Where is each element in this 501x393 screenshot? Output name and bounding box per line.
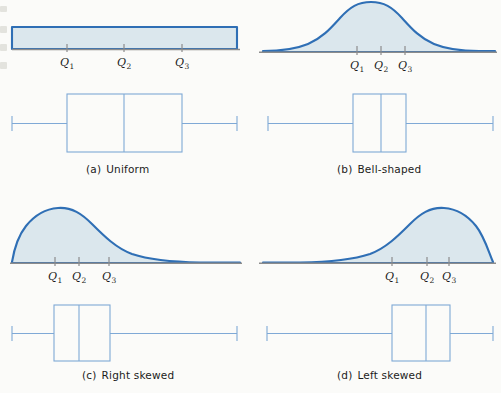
panel-b-caption-tag: (b) (337, 163, 352, 175)
q3-label: Q (398, 59, 407, 72)
panel-b-quartile-labels: Q1 Q2 Q3 (350, 59, 413, 74)
q3-subscript: 3 (452, 276, 457, 285)
panel-c-caption-tag: (c) (82, 369, 97, 381)
svg-text:Q2: Q2 (117, 56, 132, 71)
svg-text:Q3: Q3 (398, 59, 413, 74)
q1-label: Q (385, 270, 394, 283)
panel-b-caption: (b)Bell-shaped (337, 163, 421, 175)
panel-c-caption-label: Right skewed (102, 369, 175, 381)
q2-subscript: 2 (127, 62, 132, 71)
panel-c-right-skewed: Q1 Q2 Q3 (10, 208, 242, 361)
q1-label: Q (60, 56, 69, 69)
q3-subscript: 3 (185, 62, 190, 71)
distribution-shapes-figure: .curve{fill:#dbe7ed;stroke:#2f6fb5;strok… (0, 0, 501, 393)
svg-text:Q3: Q3 (175, 56, 190, 71)
panel-a-quartile-labels: Q1 Q2 Q3 (60, 56, 190, 71)
svg-text:Q1: Q1 (350, 59, 364, 74)
panel-a-boxplot (12, 94, 237, 152)
q1-subscript: 1 (360, 65, 365, 74)
q3-label: Q (102, 270, 111, 283)
q3-subscript: 3 (112, 276, 117, 285)
panel-b-boxplot (268, 94, 493, 152)
panel-a-caption: (a)Uniform (86, 163, 149, 175)
panel-c-boxplot (12, 305, 237, 361)
q3-label: Q (442, 270, 451, 283)
panel-d-quartile-labels: Q1 Q2 Q3 (385, 270, 457, 285)
q2-subscript: 2 (82, 276, 87, 285)
svg-text:Q1: Q1 (48, 270, 62, 285)
panel-c-caption: (c)Right skewed (82, 369, 174, 381)
panel-d-distribution-curve (259, 208, 496, 263)
panel-b-distribution-curve (259, 2, 497, 52)
q3-label: Q (175, 56, 184, 69)
panel-c-distribution-curve (10, 208, 242, 263)
panel-a-distribution-curve (12, 27, 240, 50)
q1-subscript: 1 (70, 62, 75, 71)
panel-a-uniform: Q1 Q2 Q3 (12, 27, 240, 152)
panel-a-caption-label: Uniform (106, 163, 149, 175)
svg-text:Q2: Q2 (72, 270, 87, 285)
panel-a-caption-tag: (a) (86, 163, 101, 175)
svg-text:Q1: Q1 (60, 56, 74, 71)
panel-d-left-skewed: Q1 Q2 Q3 (259, 208, 496, 361)
q2-label: Q (117, 56, 126, 69)
svg-text:Q3: Q3 (442, 270, 457, 285)
panel-d-caption: (d)Left skewed (337, 369, 422, 381)
q3-subscript: 3 (408, 65, 413, 74)
svg-text:Q2: Q2 (420, 270, 435, 285)
panel-b-bell-shaped: Q1 Q2 Q3 (259, 2, 497, 152)
svg-text:Q3: Q3 (102, 270, 117, 285)
q2-subscript: 2 (430, 276, 435, 285)
svg-text:Q2: Q2 (374, 59, 389, 74)
panel-c-quartile-labels: Q1 Q2 Q3 (48, 270, 117, 285)
panel-d-caption-tag: (d) (337, 369, 352, 381)
q1-label: Q (350, 59, 359, 72)
q1-label: Q (48, 270, 57, 283)
q2-subscript: 2 (384, 65, 389, 74)
panel-b-caption-label: Bell-shaped (357, 163, 421, 175)
panel-d-caption-label: Left skewed (357, 369, 422, 381)
q2-label: Q (374, 59, 383, 72)
svg-text:Q1: Q1 (385, 270, 399, 285)
q2-label: Q (72, 270, 81, 283)
q2-label: Q (420, 270, 429, 283)
q1-subscript: 1 (395, 276, 400, 285)
q1-subscript: 1 (58, 276, 63, 285)
panel-d-boxplot (267, 305, 493, 361)
